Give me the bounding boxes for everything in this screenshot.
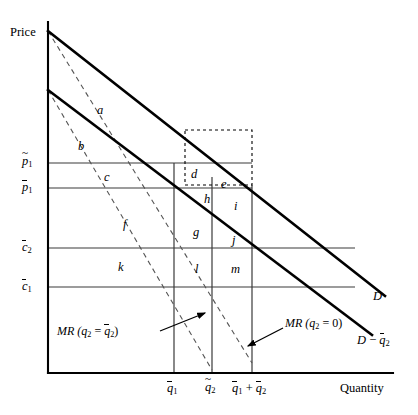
region-label-m: m [231, 263, 240, 276]
curve-label-residual-demand: D − q2 [357, 333, 390, 348]
x-tick-q1-bar-symbol: q [167, 381, 173, 395]
y-tick-p1-bar: p1 [22, 180, 33, 195]
region-label-k: k [118, 261, 124, 274]
x-axis-title: Quantity [340, 382, 384, 395]
arrow-to-mr-q2bar [160, 313, 205, 331]
y-axis-title: Price [10, 26, 36, 39]
region-label-l: l [195, 263, 198, 276]
y-tick-p1-bar-symbol: p [22, 180, 28, 194]
region-label-e: e [221, 178, 227, 191]
region-label-i: i [234, 200, 237, 213]
x-tick-q1-plus-q2-operator: + [243, 381, 256, 395]
curve-label-demand: D [373, 290, 382, 303]
x-tick-q1-bar-subscript: 1 [173, 386, 177, 396]
region-label-c: c [104, 171, 110, 184]
y-tick-c1-bar-symbol: c [22, 279, 28, 293]
curve-label-residual-demand-operator: − [366, 333, 379, 347]
mr-label-q2-equals-q2bar: MR (q2 = q2) [57, 324, 118, 339]
region-label-d: d [191, 168, 197, 181]
mr-label-q2-equals-zero: MR (q2 = 0) [285, 317, 342, 331]
y-tick-p1-tilde: p1 [22, 155, 33, 169]
x-tick-q2-tilde-subscript: 2 [211, 385, 215, 395]
y-tick-p1-tilde-subscript: 1 [28, 159, 32, 169]
horizontal-level-lines [48, 163, 355, 287]
curve-label-residual-demand-q2-subscript: 2 [386, 338, 390, 348]
mr-label-q2bar-prefix: MR ( [57, 324, 81, 338]
x-tick-q2-tilde-symbol: q [205, 381, 211, 394]
mr-label-zero-prefix: MR ( [285, 316, 309, 330]
region-label-b: b [78, 140, 84, 153]
x-tick-q1-plus-q2-first: q [232, 381, 238, 395]
y-tick-c2-bar: c2 [22, 240, 32, 255]
region-label-h: h [204, 193, 210, 206]
mr-label-zero-equals: = 0) [319, 316, 342, 330]
mr-label-q2bar-suffix: ) [114, 324, 118, 338]
region-label-a: a [97, 104, 103, 117]
arrow-to-mr-zero [248, 328, 283, 346]
y-tick-c2-bar-subscript: 2 [28, 245, 32, 255]
y-tick-c1-bar: c1 [22, 279, 32, 294]
x-tick-q2-tilde: q2 [205, 381, 216, 395]
y-tick-p1-tilde-symbol: p [22, 155, 28, 168]
region-label-j: j [232, 234, 235, 247]
demand-curve-D-minus-q2bar [48, 90, 372, 335]
x-tick-q1-plus-q2: q1 + q2 [232, 381, 266, 396]
mr-label-q2bar-arg: q [104, 324, 110, 337]
region-label-f: f [123, 218, 126, 231]
curve-label-residual-demand-D: D [357, 333, 366, 347]
y-tick-p1-bar-subscript: 1 [28, 185, 32, 195]
x-tick-q1-plus-q2-second-subscript: 2 [262, 386, 266, 396]
x-tick-q1-plus-q2-second: q [256, 381, 262, 395]
marginal-revenue-lines [48, 31, 252, 370]
y-tick-c2-bar-symbol: c [22, 240, 28, 254]
mr-label-q2bar-equals: = [91, 324, 104, 338]
region-label-g: g [193, 226, 199, 239]
annotation-arrows [160, 313, 283, 346]
curve-label-residual-demand-q2: q [379, 333, 385, 347]
y-tick-c1-bar-subscript: 1 [28, 284, 32, 294]
x-tick-q1-bar: q1 [167, 381, 178, 396]
economics-diagram: Price Quantity p1 p1 c2 c1 q1 q2 q1 + q2… [0, 0, 418, 415]
demand-curves [48, 31, 385, 335]
mr-line-q2-zero [48, 31, 252, 363]
diagram-canvas [0, 0, 418, 415]
